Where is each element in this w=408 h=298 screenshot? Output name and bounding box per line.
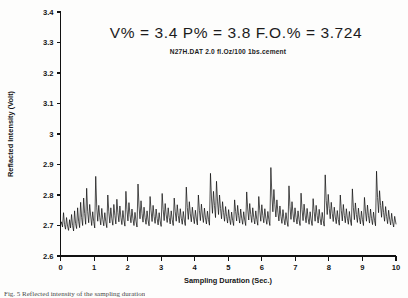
figure-caption: Fig. 5 Reflected intensity of the sampli… [4, 289, 145, 298]
y-tick-label: 2.7 [43, 221, 54, 230]
data-series-line [61, 168, 397, 231]
x-tick-label: 3 [159, 263, 163, 272]
x-axis-title: Sampling Duration (Sec.) [184, 276, 272, 285]
y-tick-label: 2.6 [43, 252, 54, 261]
x-tick-group: 012345678910 [58, 256, 400, 272]
x-tick-label: 0 [58, 263, 62, 272]
y-tick-label: 2.9 [43, 160, 54, 169]
y-axis-title: Reflacted Intensity (Volt) [6, 90, 15, 177]
chart-canvas: 2.62.72.82.933.13.23.33.4 012345678910 V… [0, 0, 408, 298]
x-tick-label: 7 [293, 263, 297, 272]
chart-subtitle: N27H.DAT 2.0 fl.Oz/100 1bs.cement [170, 48, 287, 55]
x-tick-label: 5 [226, 263, 231, 272]
x-tick-label: 6 [260, 263, 264, 272]
x-tick-label: 10 [392, 263, 400, 272]
y-tick-label: 3.3 [43, 38, 54, 47]
y-tick-group: 2.62.72.82.933.13.23.33.4 [43, 8, 61, 261]
x-tick-label: 2 [125, 263, 129, 272]
y-tick-label: 2.8 [43, 191, 54, 200]
x-tick-label: 8 [327, 263, 331, 272]
y-tick-label: 3.2 [43, 69, 54, 78]
x-tick-label: 1 [92, 263, 97, 272]
x-tick-label: 9 [360, 263, 364, 272]
chart-title: V% = 3.4 P% = 3.8 F.O.% = 3.724 [110, 24, 363, 41]
figure-container: 2.62.72.82.933.13.23.33.4 012345678910 V… [0, 0, 408, 298]
y-tick-label: 3 [49, 130, 53, 139]
y-tick-label: 3.4 [43, 8, 54, 17]
x-tick-label: 4 [193, 263, 198, 272]
y-tick-label: 3.1 [43, 99, 54, 108]
